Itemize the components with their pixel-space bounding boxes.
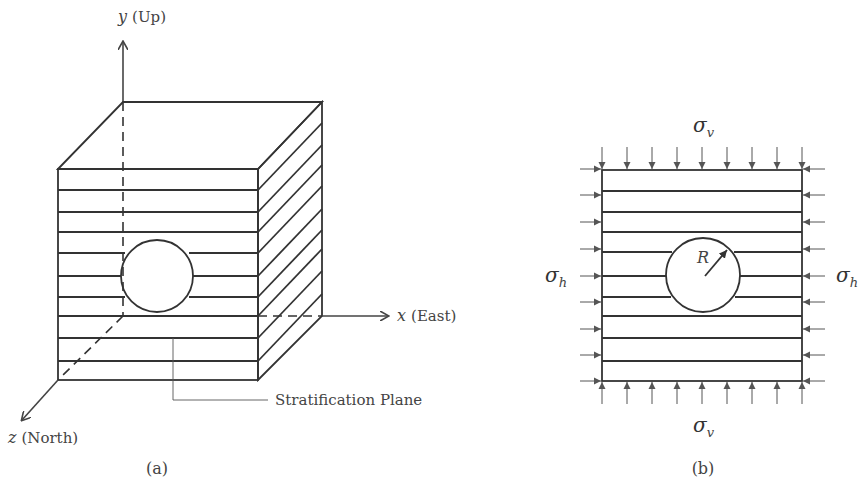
b-strata-lines <box>602 191 802 361</box>
radius-label: R <box>696 248 709 267</box>
front-strata-lines <box>58 190 258 361</box>
figure-canvas: y(Up) <box>0 0 863 490</box>
stratification-leader-line <box>173 338 268 400</box>
sigma-h-right-label: σh <box>836 263 858 290</box>
caption-b: (b) <box>692 459 715 478</box>
stratification-plane-label: Stratification Plane <box>275 391 422 409</box>
sigma-v-top-label: σv <box>693 113 715 140</box>
circular-opening <box>121 240 193 312</box>
y-axis-label: y(Up) <box>117 7 166 26</box>
right-stress-arrows <box>803 169 825 381</box>
sigma-v-bottom-label: σv <box>693 413 715 440</box>
figure-a: y(Up) <box>7 7 456 478</box>
bottom-stress-arrows <box>602 382 802 404</box>
sigma-h-left-label: σh <box>545 263 567 290</box>
z-axis-hidden-dashed <box>58 316 123 380</box>
cube-top-face <box>58 102 322 169</box>
left-stress-arrows <box>580 169 601 381</box>
top-stress-arrows <box>602 147 802 169</box>
z-axis-arrow <box>22 380 58 420</box>
figure-b: R <box>545 113 858 478</box>
z-axis-label: z(North) <box>7 428 78 447</box>
cube-front-face <box>58 169 258 380</box>
x-axis-label: x(East) <box>397 306 456 325</box>
caption-a: (a) <box>146 459 168 478</box>
